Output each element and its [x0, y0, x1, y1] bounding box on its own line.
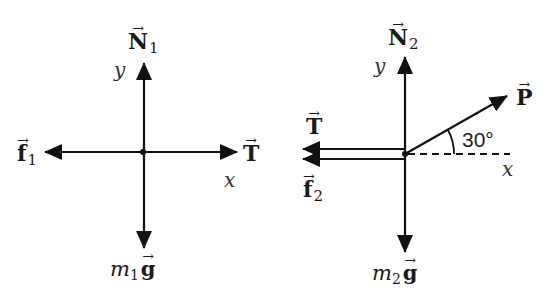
vector-arrow-icon: → [303, 169, 312, 183]
free-body-diagrams: → N 1 y → f 1 → T x m1→g → N 2 y → T → [0, 0, 553, 301]
x-axis-label-2: x [502, 159, 513, 179]
x-axis-label-1: x [224, 170, 235, 190]
normal-force-1-label: → N 1 [128, 30, 159, 52]
friction-2-label: → f 2 [303, 178, 323, 200]
block-2-origin-dot [402, 151, 408, 157]
weight-2-label: m2→g [372, 262, 418, 284]
vector-arrow-icon: → [128, 21, 148, 35]
vector-arrow-icon: → [388, 17, 408, 31]
block-2-diagram [303, 57, 510, 252]
applied-force-label: → P [516, 86, 533, 108]
y-axis-label-1: y [114, 60, 125, 80]
friction-1-label: → f 1 [17, 142, 37, 164]
vector-arrow-icon: → [403, 253, 418, 267]
vector-arrow-icon: → [17, 133, 26, 147]
y-axis-label-2: y [374, 56, 385, 76]
block-1-origin-dot [140, 149, 146, 155]
block-1-diagram [45, 63, 237, 248]
tension-1-label: → T [243, 142, 259, 164]
normal-force-2-label: → N 2 [388, 26, 419, 48]
vector-arrow-icon: → [243, 133, 259, 147]
angle-arc [448, 130, 454, 154]
vector-arrow-icon: → [516, 77, 533, 91]
vector-arrow-icon: → [141, 249, 156, 263]
vector-arrow-icon: → [306, 106, 322, 120]
tension-2-label: → T [306, 115, 322, 137]
weight-1-label: m1→g [110, 258, 156, 280]
angle-label: 30° [462, 129, 494, 150]
